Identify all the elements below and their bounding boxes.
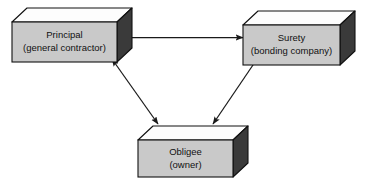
connector-surety-to-obligee bbox=[213, 62, 255, 124]
node-surety[interactable]: Surety (bonding company) bbox=[243, 11, 355, 65]
surety-label-primary: Surety bbox=[278, 32, 306, 43]
arrow-line-principal-obligee bbox=[112, 59, 158, 124]
node-principal[interactable]: Principal (general contractor) bbox=[12, 8, 132, 62]
surety-relationship-diagram: Principal (general contractor) Surety (b… bbox=[0, 0, 365, 183]
node-obligee[interactable]: Obligee (owner) bbox=[138, 126, 248, 177]
diagram-canvas: Principal (general contractor) Surety (b… bbox=[0, 0, 365, 183]
connector-principal-obligee bbox=[112, 59, 158, 124]
principal-label-primary: Principal bbox=[46, 29, 82, 40]
principal-label-secondary: (general contractor) bbox=[23, 42, 106, 53]
obligee-label-primary: Obligee bbox=[169, 146, 202, 157]
principal-box-top-face bbox=[12, 8, 132, 22]
obligee-label-secondary: (owner) bbox=[169, 159, 201, 170]
obligee-box-top-face bbox=[138, 126, 248, 140]
arrow-line-surety-obligee bbox=[213, 62, 255, 124]
surety-label-secondary: (bonding company) bbox=[251, 45, 332, 56]
surety-box-top-face bbox=[243, 11, 355, 25]
